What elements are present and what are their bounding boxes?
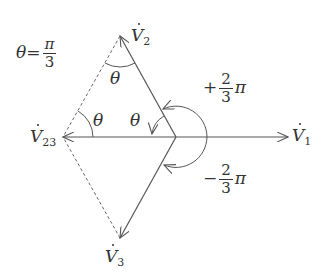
theta-label-left: θ [93,112,103,129]
negative-angle-arc [164,137,207,167]
fraction-numerator: 2 [219,72,233,89]
angle-sign: − [203,168,217,188]
phasor-subscript: 2 [143,35,150,48]
theta-arc-center [152,116,164,134]
phasor-v3-label: V3 [105,248,124,268]
phasor-subscript: 23 [42,136,56,149]
theta-arc-top [105,63,135,67]
fraction-denominator: 3 [221,180,231,197]
phasor-v2-label: V2 [131,27,150,47]
phasor-base: V [105,248,117,265]
phasor-subscript: 1 [304,135,311,148]
two-thirds-fraction: 23 [219,163,233,196]
theta-definition: θ=π3 [16,37,58,70]
negative-angle-label: −23π [203,163,246,196]
phasor-v23-label: V23 [30,128,56,148]
positive-angle-arc [163,106,207,137]
phasor-base: V [292,127,304,144]
pi-symbol: π [235,168,246,188]
fraction-numerator: 2 [219,163,233,180]
pi-symbol: π [235,77,246,97]
phasor-v1-label: V1 [292,127,311,147]
theta-label-center: θ [130,112,140,129]
dashed-v3-v23 [63,137,120,238]
two-thirds-fraction: 23 [219,72,233,105]
theta-symbol: θ [16,42,26,62]
phasor-base: V [30,128,42,145]
phasor-v2-arrow [120,36,176,137]
phasor-v3-arrow [120,137,176,238]
positive-angle-label: +23π [203,72,246,105]
phasor-diagram: θ=π3 V2 V1 V23 V3 θ θ θ +23π −23π [0,0,326,277]
fraction-numerator: π [43,37,57,54]
pi-over-3-fraction: π3 [43,37,57,70]
fraction-denominator: 3 [221,89,231,106]
phasor-subscript: 3 [117,256,124,269]
fraction-denominator: 3 [45,54,55,71]
phasor-base: V [131,27,143,44]
theta-arc-left [78,111,93,137]
equals-sign: = [26,42,40,62]
angle-sign: + [203,77,217,97]
theta-label-top: θ [110,70,120,87]
